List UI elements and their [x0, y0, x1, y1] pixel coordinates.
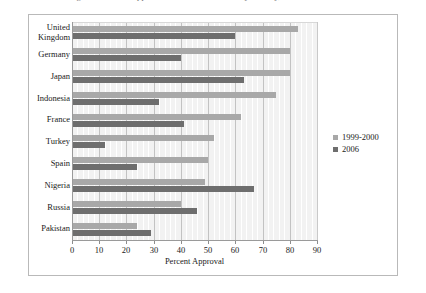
bar-germany-1999-2000 — [72, 48, 290, 54]
bar-row — [72, 48, 317, 61]
bar-united-kingdom-1999-2000 — [72, 26, 298, 32]
x-tick-mark — [99, 241, 100, 244]
legend-swatch-1999-2000 — [333, 135, 338, 140]
bar-turkey-1999-2000 — [72, 135, 214, 141]
y-label-france: France — [28, 115, 70, 125]
legend-item-2006: 2006 — [333, 143, 403, 155]
x-tick-label-70: 70 — [251, 245, 275, 255]
x-axis-title: Percent Approval — [72, 256, 317, 266]
bar-row — [72, 70, 317, 83]
plot-border-top — [72, 22, 318, 23]
bar-indonesia-2006 — [72, 99, 159, 105]
bar-row — [72, 201, 317, 214]
bar-japan-1999-2000 — [72, 70, 290, 76]
x-tick-label-30: 30 — [142, 245, 166, 255]
x-tick-label-20: 20 — [114, 245, 138, 255]
bar-indonesia-1999-2000 — [72, 92, 276, 98]
bar-pakistan-2006 — [72, 230, 151, 236]
bar-france-2006 — [72, 121, 184, 127]
x-tick-mark — [317, 241, 318, 244]
bar-germany-2006 — [72, 55, 181, 61]
plot-area — [72, 22, 317, 240]
legend-item-1999-2000: 1999-2000 — [333, 131, 403, 143]
figure-caption: Figure 1. Percent approval of the United… — [0, 0, 426, 5]
plot-border-right — [317, 22, 318, 241]
bar-spain-2006 — [72, 164, 137, 170]
y-axis-line — [72, 22, 73, 241]
bar-row — [72, 26, 317, 39]
y-label-spain: Spain — [28, 159, 70, 169]
bar-row — [72, 223, 317, 236]
bar-united-kingdom-2006 — [72, 33, 235, 39]
bar-france-1999-2000 — [72, 114, 241, 120]
x-tick-label-40: 40 — [169, 245, 193, 255]
bar-row — [72, 179, 317, 192]
x-tick-mark — [290, 241, 291, 244]
bar-spain-1999-2000 — [72, 157, 208, 163]
bar-pakistan-1999-2000 — [72, 223, 137, 229]
y-label-japan: Japan — [28, 72, 70, 82]
x-tick-label-50: 50 — [196, 245, 220, 255]
bar-japan-2006 — [72, 77, 244, 83]
y-label-indonesia: Indonesia — [28, 94, 70, 104]
x-tick-mark — [208, 241, 209, 244]
legend-swatch-2006 — [333, 147, 338, 152]
bar-turkey-2006 — [72, 142, 105, 148]
legend-label-2006: 2006 — [342, 144, 359, 154]
bar-nigeria-1999-2000 — [72, 179, 205, 185]
x-tick-mark — [154, 241, 155, 244]
y-axis-labels: UnitedKingdomGermanyJapanIndonesiaFrance… — [28, 22, 70, 240]
bar-rows — [72, 22, 317, 240]
bar-row — [72, 135, 317, 148]
x-tick-label-80: 80 — [278, 245, 302, 255]
y-label-russia: Russia — [28, 203, 70, 213]
x-tick-mark — [263, 241, 264, 244]
bar-row — [72, 157, 317, 170]
y-label-pakistan: Pakistan — [28, 224, 70, 234]
chart-legend: 1999-20002006 — [333, 131, 403, 155]
x-axis-ticks: 0102030405060708090 — [0, 241, 426, 255]
chart-figure: Figure 1. Percent approval of the United… — [0, 0, 426, 293]
legend-label-1999-2000: 1999-2000 — [342, 132, 379, 142]
bar-nigeria-2006 — [72, 186, 254, 192]
x-tick-mark — [126, 241, 127, 244]
y-label-turkey: Turkey — [28, 137, 70, 147]
bar-russia-2006 — [72, 208, 197, 214]
y-label-nigeria: Nigeria — [28, 181, 70, 191]
x-tick-label-0: 0 — [60, 245, 84, 255]
x-tick-label-60: 60 — [223, 245, 247, 255]
y-label-united-kingdom: UnitedKingdom — [28, 23, 70, 42]
x-tick-mark — [181, 241, 182, 244]
x-tick-mark — [72, 241, 73, 244]
bar-row — [72, 114, 317, 127]
y-label-germany: Germany — [28, 50, 70, 60]
x-tick-label-90: 90 — [305, 245, 329, 255]
bar-russia-1999-2000 — [72, 201, 181, 207]
x-tick-label-10: 10 — [87, 245, 111, 255]
bar-row — [72, 92, 317, 105]
x-tick-mark — [235, 241, 236, 244]
